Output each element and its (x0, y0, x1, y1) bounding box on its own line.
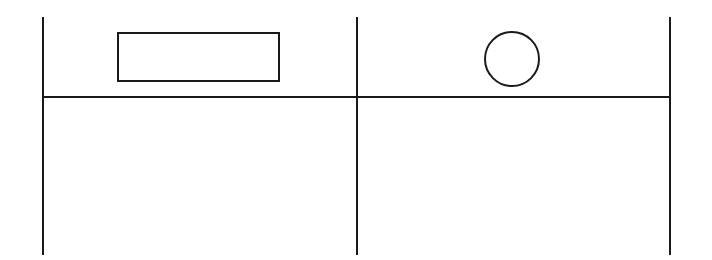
diagram-canvas (0, 0, 712, 260)
